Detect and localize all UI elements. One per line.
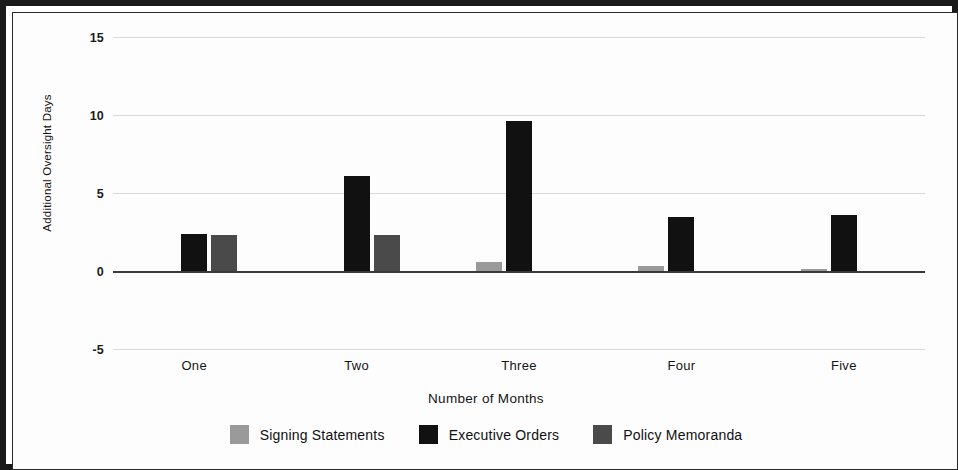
chart-legend: Signing StatementsExecutive OrdersPolicy… <box>13 425 958 444</box>
bar-group <box>600 37 762 349</box>
x-axis-tick-label: Two <box>344 358 369 373</box>
bar <box>344 176 370 271</box>
bar <box>181 234 207 271</box>
legend-swatch-icon <box>230 425 249 444</box>
scanned-page-inner-border: Additional Oversight Days 151050-5 OneTw… <box>12 12 958 470</box>
y-axis-tick-label: 15 <box>90 31 104 45</box>
bar-group <box>113 37 275 349</box>
legend-item[interactable]: Signing Statements <box>230 425 385 444</box>
legend-label: Signing Statements <box>260 427 385 443</box>
scanned-page-border: Additional Oversight Days 151050-5 OneTw… <box>0 0 958 470</box>
x-axis-tick-label: Four <box>667 358 695 373</box>
bar <box>374 235 400 271</box>
gridline: -5 <box>113 349 925 350</box>
bar <box>801 269 827 271</box>
legend-item[interactable]: Executive Orders <box>419 425 560 444</box>
y-axis-tick-label: 0 <box>97 265 104 279</box>
bar <box>831 215 857 271</box>
y-axis-title: Additional Oversight Days <box>41 94 53 231</box>
x-axis-tick-label: One <box>181 358 206 373</box>
legend-label: Executive Orders <box>449 427 560 443</box>
legend-swatch-icon <box>593 425 612 444</box>
bar-group <box>275 37 437 349</box>
y-axis-tick-label: -5 <box>92 343 104 357</box>
bar-chart-figure: Additional Oversight Days 151050-5 OneTw… <box>13 13 958 470</box>
y-axis-tick-label: 5 <box>97 187 104 201</box>
bar <box>638 266 664 271</box>
bar <box>668 217 694 271</box>
bar-group <box>763 37 925 349</box>
bar <box>506 121 532 271</box>
bars-layer <box>113 37 925 349</box>
bar-group <box>438 37 600 349</box>
x-axis-tick-label: Three <box>501 358 536 373</box>
y-axis-tick-label: 10 <box>90 109 104 123</box>
legend-swatch-icon <box>419 425 438 444</box>
bar <box>211 235 237 271</box>
legend-label: Policy Memoranda <box>623 427 742 443</box>
plot-area: 151050-5 <box>113 37 925 349</box>
legend-item[interactable]: Policy Memoranda <box>593 425 742 444</box>
x-axis-title: Number of Months <box>13 391 958 406</box>
x-axis-tick-label: Five <box>831 358 857 373</box>
bar <box>476 262 502 271</box>
